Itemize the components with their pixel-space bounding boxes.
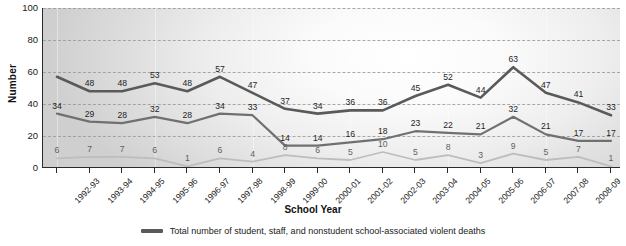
point-label-s2-13: 3 <box>478 151 483 160</box>
point-label-s2-7: 8 <box>283 143 288 152</box>
x-axis-ticks <box>42 168 620 173</box>
point-label-s0-11: 45 <box>411 84 421 93</box>
x-tick-15 <box>545 168 546 173</box>
point-label-s1-16: 17 <box>574 129 584 138</box>
y-tick-40: 40 <box>12 98 38 109</box>
point-label-s1-8: 14 <box>313 133 323 142</box>
x-tick-3 <box>154 168 155 173</box>
point-label-s0-10: 36 <box>378 98 388 107</box>
series-line-1 <box>57 114 611 146</box>
x-tick-2 <box>121 168 122 173</box>
y-tick-80: 80 <box>12 34 38 45</box>
x-tick-label-1: 1993-94 <box>105 176 134 205</box>
point-label-s0-16: 41 <box>574 90 584 99</box>
y-axis-tick-labels: 020406080100 <box>6 0 38 180</box>
x-tick-12 <box>447 168 448 173</box>
x-tick-1 <box>89 168 90 173</box>
point-label-s0-6: 47 <box>248 81 258 90</box>
x-tick-label-5: 1997-98 <box>235 176 264 205</box>
x-tick-10 <box>382 168 383 173</box>
y-tick-20: 20 <box>12 130 38 141</box>
legend: Total number of student, staff, and nons… <box>0 226 626 236</box>
x-tick-14 <box>512 168 513 173</box>
point-label-s1-13: 21 <box>476 122 486 131</box>
x-tick-label-10: 2002-03 <box>398 176 427 205</box>
point-label-s1-10: 18 <box>378 127 388 136</box>
point-label-s2-3: 6 <box>152 146 157 155</box>
point-label-s1-0: 34 <box>52 101 62 110</box>
x-tick-label-13: 2005-06 <box>496 176 525 205</box>
x-tick-label-12: 2004-05 <box>463 176 492 205</box>
point-label-s1-1: 29 <box>85 109 95 118</box>
point-label-s2-14: 9 <box>511 141 516 150</box>
legend-swatch-total <box>141 229 163 232</box>
series-line-2 <box>57 152 611 166</box>
x-tick-label-0: 1992-93 <box>72 176 101 205</box>
x-tick-13 <box>480 168 481 173</box>
point-label-s0-17: 33 <box>606 103 616 112</box>
point-label-s2-8: 6 <box>315 146 320 155</box>
series-line-0 <box>57 67 611 115</box>
point-label-s1-17: 17 <box>606 129 616 138</box>
point-label-s1-9: 16 <box>346 130 356 139</box>
y-tick-60: 60 <box>12 66 38 77</box>
x-tick-label-6: 1998-99 <box>268 176 297 205</box>
x-tick-label-16: 2008-09 <box>594 176 623 205</box>
x-tick-5 <box>219 168 220 173</box>
point-label-s2-16: 7 <box>576 145 581 154</box>
point-label-s1-4: 28 <box>183 111 193 120</box>
point-label-s0-7: 37 <box>280 97 290 106</box>
point-label-s2-0: 6 <box>55 146 60 155</box>
x-tick-label-15: 2007-08 <box>561 176 590 205</box>
legend-label-total: Total number of student, staff, and nons… <box>170 226 486 236</box>
x-tick-label-7: 1999-00 <box>300 176 329 205</box>
x-tick-label-9: 2001-02 <box>366 176 395 205</box>
x-tick-label-4: 1996-97 <box>203 176 232 205</box>
point-label-s1-6: 33 <box>248 103 258 112</box>
point-label-s1-12: 22 <box>443 121 453 130</box>
point-label-s0-4: 48 <box>183 79 193 88</box>
x-tick-17 <box>610 168 611 173</box>
point-label-s0-13: 44 <box>476 85 486 94</box>
point-label-s0-1: 48 <box>85 79 95 88</box>
x-tick-16 <box>577 168 578 173</box>
point-label-s2-1: 7 <box>87 145 92 154</box>
plot-area: 4848534857473734363645524463474133342928… <box>42 8 620 168</box>
x-tick-label-14: 2006-07 <box>528 176 557 205</box>
point-label-s1-3: 32 <box>150 105 160 114</box>
point-label-s2-9: 5 <box>348 148 353 157</box>
point-label-s1-7: 14 <box>280 133 290 142</box>
x-tick-9 <box>349 168 350 173</box>
x-tick-label-11: 2003-04 <box>431 176 460 205</box>
point-label-s1-15: 21 <box>541 122 551 131</box>
x-axis-title: School Year <box>0 204 626 215</box>
x-tick-4 <box>186 168 187 173</box>
point-label-s2-4: 1 <box>185 154 190 163</box>
point-label-s1-5: 34 <box>215 101 225 110</box>
x-tick-0 <box>56 168 57 173</box>
y-tick-100: 100 <box>12 2 38 13</box>
point-label-s0-15: 47 <box>541 81 551 90</box>
point-label-s0-12: 52 <box>443 73 453 82</box>
point-label-s2-6: 4 <box>250 149 255 158</box>
point-label-s2-2: 7 <box>120 145 125 154</box>
point-label-s2-17: 1 <box>609 154 614 163</box>
point-label-s0-8: 34 <box>313 101 323 110</box>
point-label-s1-14: 32 <box>508 105 518 114</box>
x-tick-11 <box>414 168 415 173</box>
x-tick-label-8: 2000-01 <box>333 176 362 205</box>
point-label-s0-9: 36 <box>346 98 356 107</box>
point-label-s0-3: 53 <box>150 71 160 80</box>
point-label-s1-2: 28 <box>117 111 127 120</box>
y-tick-0: 0 <box>12 162 38 173</box>
point-label-s2-10: 10 <box>378 140 388 149</box>
point-label-s2-5: 6 <box>218 146 223 155</box>
x-tick-8 <box>317 168 318 173</box>
line-chart: Number 020406080100 48485348574737343636… <box>0 0 626 246</box>
point-label-s1-11: 23 <box>411 119 421 128</box>
x-tick-6 <box>252 168 253 173</box>
x-tick-7 <box>284 168 285 173</box>
point-label-s2-12: 8 <box>446 143 451 152</box>
point-label-s2-11: 5 <box>413 148 418 157</box>
point-label-s2-15: 5 <box>543 148 548 157</box>
